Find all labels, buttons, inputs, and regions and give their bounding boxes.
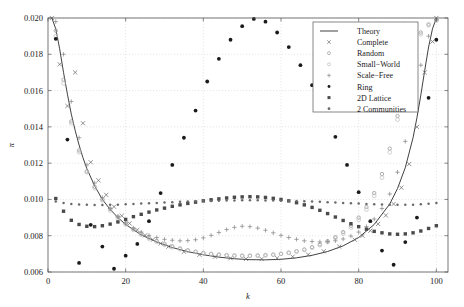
marker-cross [376,222,380,226]
scatter-plot: 0.0060.0080.0100.0120.0140.0160.0180.020… [0,0,464,307]
marker-cross [58,62,62,66]
marker-dot [240,24,244,28]
marker-square [264,196,267,199]
marker-dot-small [233,199,236,202]
x-axis-title: k [246,291,250,301]
marker-dot [66,138,70,142]
marker-dot [100,245,104,249]
marker-cross [73,70,77,74]
marker-dot-small [148,202,151,205]
marker-square [396,233,399,236]
y-tick-label: 0.010 [24,194,43,204]
marker-dot [170,163,174,167]
series-2d-lattice [54,195,438,236]
marker-dot [135,242,139,246]
marker-dot-small [373,203,376,206]
y-tick-label: 0.014 [24,122,44,132]
y-tick-label: 0.020 [24,13,43,23]
marker-dot-small [311,200,314,203]
marker-dot-small [288,200,291,203]
legend: TheoryCompleteRandomSmall−WorldScale−Fre… [313,22,418,114]
marker-circle-open [388,150,392,154]
marker-plus [349,234,353,238]
marker-square [54,197,57,200]
marker-plus [54,19,58,23]
marker-plus [186,238,190,242]
marker-plus [193,238,197,242]
marker-dot-small [101,204,104,207]
marker-square [435,224,438,227]
legend-label-small-world: Small−World [357,60,400,69]
marker-plus [178,239,182,243]
marker-dot-small [280,199,283,202]
marker-dot [287,45,291,49]
marker-dot [427,96,431,100]
marker-square [256,195,259,198]
marker-dot-small [326,201,329,204]
marker-plus [155,235,159,239]
marker-dot [357,190,361,194]
y-tick-label: 0.006 [24,267,43,277]
legend-label-random: Random [357,49,385,58]
marker-dot-small [179,201,182,204]
marker-dot-small [124,203,127,206]
y-tick-label: 0.008 [24,231,43,241]
marker-dot-small [194,200,197,203]
marker-cross [127,221,131,225]
marker-square [357,225,360,228]
marker-cross [368,229,372,233]
marker-cross [81,121,85,125]
x-tick-label: 60 [277,276,286,286]
marker-circle-open [365,208,369,212]
marker-plus [372,217,376,221]
marker-dot-small [435,202,438,205]
marker-cross [112,205,116,209]
marker-dot-small [140,202,143,205]
marker-square [427,227,430,230]
marker-dot-small [357,202,360,205]
marker-square [132,215,135,218]
marker-square [225,196,228,199]
marker-plus [248,224,252,228]
x-tick-label: 80 [354,276,363,286]
marker-dot-small [420,203,423,206]
marker-square [365,227,368,230]
marker-dot [415,216,419,220]
marker-plus [61,52,65,56]
marker-dot [217,57,221,61]
marker-dot [182,136,186,140]
y-tick-label: 0.012 [24,158,43,168]
marker-dot-small [78,203,81,206]
marker-plus [403,139,407,143]
marker-square [303,203,306,206]
marker-dot-small [202,200,205,203]
marker-dot-small [132,203,135,206]
marker-square [108,222,111,225]
series-2-communities [55,199,438,206]
marker-circle-open [396,118,400,122]
marker-cross [430,39,434,43]
marker-square [233,196,236,199]
marker-circle [380,172,383,175]
x-tick-label: 100 [430,276,443,286]
marker-circle [388,147,391,150]
marker-dot [205,80,209,84]
marker-plus [162,237,166,241]
marker-square [155,208,158,211]
marker-cross [104,193,108,197]
marker-dot-small [264,199,267,202]
marker-square [163,206,166,209]
marker-dot-small [86,204,89,207]
marker-cross [399,186,403,190]
marker-square [380,231,383,234]
marker-square [85,225,88,228]
marker-plus [356,230,360,234]
marker-dot-small [171,201,174,204]
marker-square [147,210,150,213]
x-tick-label: 20 [121,276,130,286]
marker-dot [194,109,198,113]
marker-dot [380,249,384,253]
marker-dot [112,267,116,271]
marker-dot-small [117,203,120,206]
marker-dot [403,240,407,244]
